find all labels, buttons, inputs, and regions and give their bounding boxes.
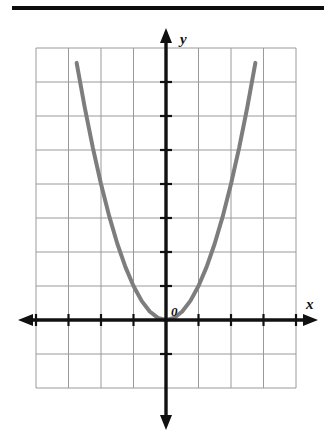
y-axis-arrow-down — [160, 415, 172, 430]
x-axis-arrow-right — [303, 314, 318, 326]
y-axis-arrow-up — [160, 28, 172, 43]
origin-label: 0 — [171, 304, 178, 319]
x-axis-label: x — [305, 296, 314, 312]
x-axis-arrow-left — [18, 314, 33, 326]
coordinate-plane: y x 0 — [0, 0, 336, 433]
y-axis-label: y — [178, 31, 187, 47]
math-figure: y x 0 — [0, 0, 336, 433]
